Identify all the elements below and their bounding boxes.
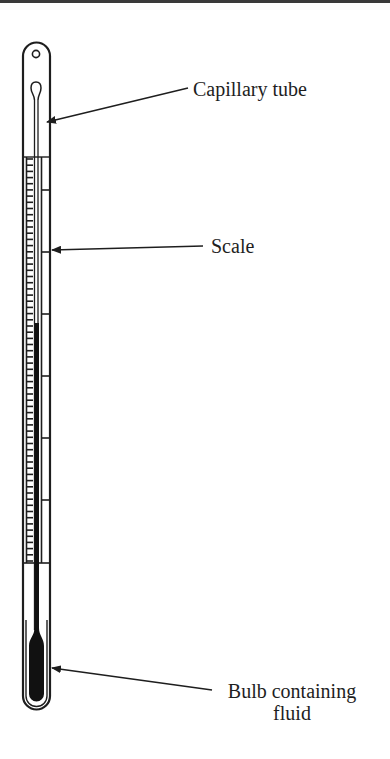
fluid-bulb	[29, 628, 44, 702]
hanging-hole-icon	[32, 50, 39, 57]
scale-label: Scale	[211, 235, 254, 257]
fluid-column	[35, 323, 40, 633]
scale-arrow	[52, 246, 203, 250]
capillary-arrow	[47, 88, 188, 122]
bulb-arrow	[52, 668, 212, 690]
thermometer-diagram	[0, 0, 390, 759]
bulb-label-line2: fluid	[212, 702, 372, 724]
capillary-tube-label: Capillary tube	[193, 78, 307, 100]
capillary-expansion-loop	[31, 82, 41, 100]
bulb-label-line1: Bulb containing	[212, 680, 372, 702]
scale-ticks	[27, 159, 34, 561]
